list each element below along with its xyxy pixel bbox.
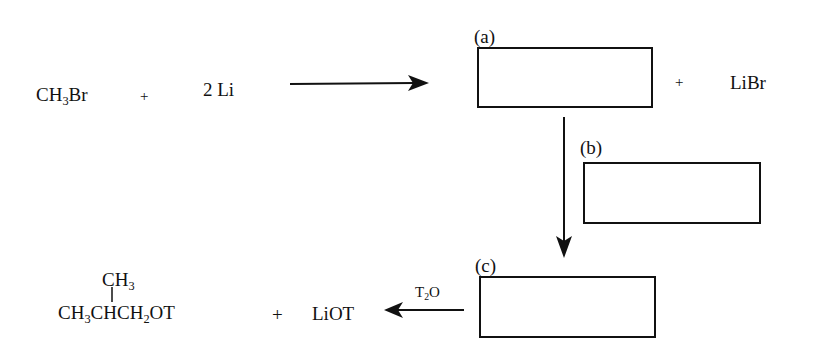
byproduct-liot: LiOT bbox=[312, 304, 354, 323]
answer-box-a[interactable] bbox=[477, 47, 653, 108]
answer-box-c[interactable] bbox=[479, 276, 656, 338]
box-b-label: (b) bbox=[580, 138, 602, 157]
answer-box-b[interactable] bbox=[583, 162, 761, 224]
plus-sign: + bbox=[272, 305, 283, 324]
product-isobutanol-ot: CH3CHCH2OT bbox=[58, 303, 175, 322]
left-arrow-icon bbox=[384, 302, 464, 318]
right-arrow-icon bbox=[290, 75, 429, 91]
byproduct-libr: LiBr bbox=[730, 73, 766, 92]
reagent-t2o: T2O bbox=[415, 285, 440, 300]
box-a-label: (a) bbox=[474, 27, 495, 46]
reactant-li: 2 Li bbox=[203, 80, 234, 99]
down-arrow-icon bbox=[556, 117, 572, 258]
box-c-label: (c) bbox=[475, 256, 496, 275]
product-branch-ch3: CH3 bbox=[102, 270, 135, 289]
plus-sign: + bbox=[140, 89, 148, 104]
plus-sign: + bbox=[675, 75, 683, 90]
reactant-ch3br: CH3Br bbox=[36, 85, 88, 104]
